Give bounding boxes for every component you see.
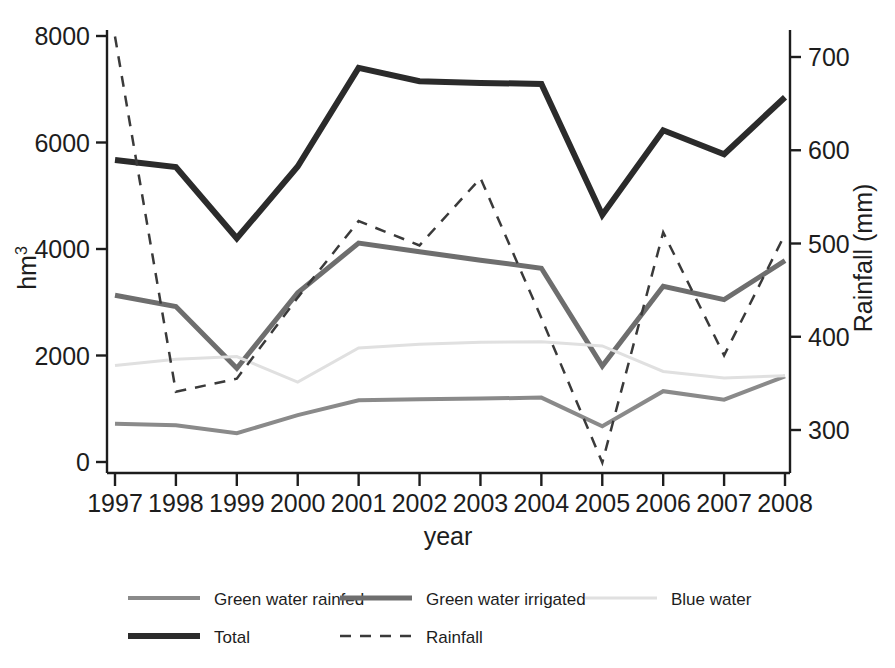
x-tick-label: 1998 xyxy=(148,489,204,517)
axis-left: 02000400060008000 xyxy=(34,22,107,476)
y-axis-title-text: hm xyxy=(13,255,41,290)
x-tick-label: 2003 xyxy=(453,489,509,517)
legend-item: Green water irrigated xyxy=(340,590,586,609)
chart-figure: 02000400060008000 300400500600700 199719… xyxy=(0,0,895,668)
x-tick-label: 2004 xyxy=(514,489,570,517)
x-tick-label: 1999 xyxy=(209,489,265,517)
y-tick-label: 4000 xyxy=(34,235,90,263)
x-axis-title-text: year xyxy=(424,522,473,550)
y-tick-label: 0 xyxy=(76,448,90,476)
y2-tick-label: 600 xyxy=(808,136,850,164)
x-axis-title: year xyxy=(424,522,473,550)
legend-label: Total xyxy=(214,628,250,647)
chart-legend: Green water rainfedGreen water irrigated… xyxy=(128,590,752,647)
x-tick-label: 2006 xyxy=(635,489,691,517)
legend-item: Total xyxy=(128,628,250,647)
legend-item: Rainfall xyxy=(340,628,483,647)
y2-tick-label: 700 xyxy=(808,43,850,71)
y-tick-label: 8000 xyxy=(34,22,90,50)
series-line-green-water-rainfed xyxy=(115,376,785,433)
y-tick-label: 2000 xyxy=(34,342,90,370)
legend-item: Green water rainfed xyxy=(128,590,364,609)
y2-tick-label: 400 xyxy=(808,323,850,351)
x-tick-label: 2000 xyxy=(270,489,326,517)
series-line-total xyxy=(115,68,785,238)
x-tick-label: 2002 xyxy=(392,489,448,517)
axis-right: 300400500600700 xyxy=(790,30,850,473)
y-tick-label: 6000 xyxy=(34,129,90,157)
axis-bottom: 1997199819992000200120022003200420052006… xyxy=(87,473,813,517)
x-tick-label: 2001 xyxy=(331,489,387,517)
x-tick-label: 2005 xyxy=(574,489,630,517)
x-tick-label: 2007 xyxy=(696,489,752,517)
data-series-layer xyxy=(115,37,785,463)
y2-axis-title-text: Rainfall (mm) xyxy=(849,184,877,333)
y2-tick-label: 300 xyxy=(808,416,850,444)
x-tick-label: 2008 xyxy=(757,489,813,517)
legend-label: Green water irrigated xyxy=(426,590,586,609)
legend-item: Blue water xyxy=(585,590,752,609)
legend-label: Rainfall xyxy=(426,628,483,647)
y-axis-title-superscript: 3 xyxy=(13,246,30,255)
legend-label: Blue water xyxy=(671,590,752,609)
x-tick-label: 1997 xyxy=(87,489,143,517)
series-line-green-water-irrigated xyxy=(115,243,785,368)
chart-canvas: 02000400060008000 300400500600700 199719… xyxy=(0,0,895,668)
y2-tick-label: 500 xyxy=(808,230,850,258)
y2-axis-title: Rainfall (mm) xyxy=(849,184,877,333)
